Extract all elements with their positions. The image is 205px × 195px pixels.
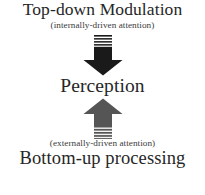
perception-title: Perception	[0, 76, 205, 96]
up-arrow-icon	[80, 98, 126, 139]
down-arrow-container	[0, 35, 205, 76]
top-down-modulation-subtitle: (internally-driven attention)	[0, 21, 205, 31]
down-arrow-icon	[80, 35, 126, 76]
bottom-up-processing-title: Bottom-up processing	[0, 149, 205, 168]
up-arrow-container	[0, 98, 205, 139]
top-down-modulation-title: Top-down Modulation	[0, 1, 205, 19]
diagram-canvas: Top-down Modulation (internally-driven a…	[0, 0, 205, 195]
